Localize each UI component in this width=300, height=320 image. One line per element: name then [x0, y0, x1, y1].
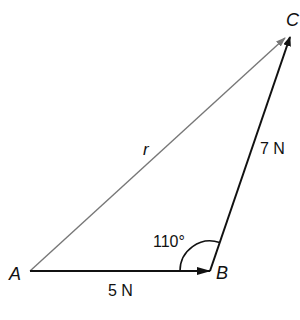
point-label-b: B — [216, 264, 228, 282]
vector-triangle-diagram — [0, 0, 300, 320]
vector-r-label: r — [143, 141, 149, 158]
point-label-c: C — [286, 11, 299, 29]
point-label-a: A — [9, 265, 21, 283]
angle-arc-b — [180, 241, 220, 271]
vector-bc-label: 7 N — [260, 141, 285, 157]
angle-label-b: 110° — [153, 234, 185, 250]
vector-ab-label: 5 N — [108, 283, 133, 299]
